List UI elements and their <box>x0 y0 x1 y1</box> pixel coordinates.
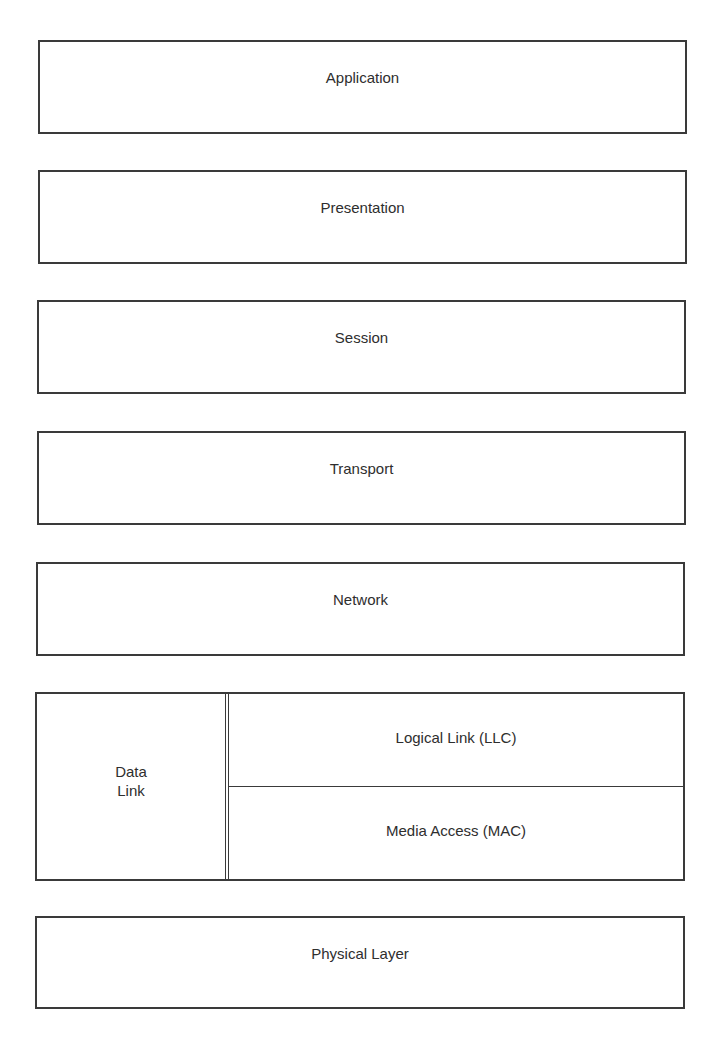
layer-session: Session <box>37 300 686 394</box>
sublayer-label: Logical Link (LLC) <box>396 729 517 746</box>
data-link-label-line1: Data <box>115 762 147 781</box>
layer-label: Physical Layer <box>37 944 683 961</box>
layer-data-link: Data Link Logical Link (LLC) Media Acces… <box>35 692 685 881</box>
sublayer-llc: Logical Link (LLC) <box>229 694 683 787</box>
layer-application: Application <box>38 40 687 134</box>
layer-label: Session <box>39 329 684 346</box>
layer-network: Network <box>36 562 685 656</box>
data-link-label-line2: Link <box>115 781 147 800</box>
data-link-main: Data Link <box>37 694 225 879</box>
sublayer-mac: Media Access (MAC) <box>229 787 683 879</box>
layer-label: Network <box>38 591 683 608</box>
layer-presentation: Presentation <box>38 170 687 264</box>
layer-physical: Physical Layer <box>35 916 685 1009</box>
layer-label: Presentation <box>40 199 685 216</box>
layer-label: Transport <box>39 460 684 477</box>
layer-transport: Transport <box>37 431 686 525</box>
data-link-sublayers: Logical Link (LLC) Media Access (MAC) <box>229 694 683 879</box>
layer-label: Application <box>40 69 685 86</box>
sublayer-label: Media Access (MAC) <box>386 822 526 839</box>
data-link-label: Data Link <box>115 762 147 800</box>
